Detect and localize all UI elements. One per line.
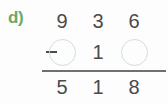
difference-digit-hundreds-cell: 5 [44, 72, 80, 102]
difference-digit-tens-cell: 1 [80, 72, 116, 102]
answer-circle-hundreds[interactable] [49, 39, 76, 66]
problem-label: d) [8, 9, 23, 26]
difference-row: 5 1 8 [44, 72, 168, 102]
difference-digit-ones-cell: 8 [116, 72, 152, 102]
difference-digit-tens: 1 [92, 77, 103, 97]
difference-digit-hundreds: 5 [56, 77, 67, 97]
subtrahend-row: 1 [44, 37, 168, 67]
subtrahend-digit-tens-cell: 1 [80, 37, 116, 67]
minuend-digit-tens: 3 [92, 11, 103, 31]
subtrahend-digit-hundreds-cell[interactable] [44, 37, 80, 67]
minuend-digit-hundreds-cell: 9 [44, 6, 80, 36]
difference-digit-ones: 8 [128, 77, 139, 97]
minuend-digit-ones: 6 [128, 11, 139, 31]
answer-circle-ones[interactable] [121, 39, 148, 66]
minuend-digit-tens-cell: 3 [80, 6, 116, 36]
subtraction-problem: d) 9 3 6 1 5 1 8 [0, 0, 168, 104]
minuend-digit-ones-cell: 6 [116, 6, 152, 36]
minuend-row: 9 3 6 [44, 6, 168, 36]
minuend-digit-hundreds: 9 [56, 11, 67, 31]
subtrahend-digit-ones-cell[interactable] [116, 37, 152, 67]
subtrahend-digit-tens: 1 [92, 42, 103, 62]
